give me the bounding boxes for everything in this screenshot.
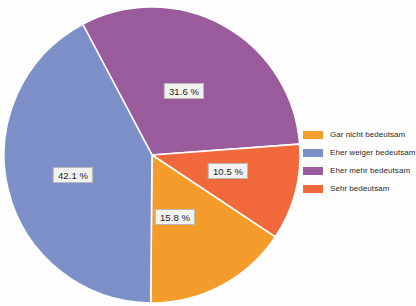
legend-item-label: Gar nicht bedeutsam bbox=[330, 130, 405, 140]
legend-color-swatch-icon bbox=[303, 149, 323, 157]
legend-color-swatch-icon bbox=[303, 131, 323, 139]
pie-slice-value-label: 42.1 % bbox=[53, 167, 93, 183]
legend-item[interactable]: Eher mehr bedeutsam bbox=[303, 162, 415, 179]
pie-slice-value-label: 10.5 % bbox=[208, 163, 248, 179]
pie-slice-group bbox=[4, 7, 300, 303]
legend-item-label: Eher mehr bedeutsam bbox=[330, 166, 410, 176]
legend-item-label: Sehr bedeutsam bbox=[330, 184, 389, 194]
legend-item[interactable]: Eher weiger bedeutsam bbox=[303, 144, 415, 161]
pie-slice-value-label: 15.8 % bbox=[155, 209, 195, 225]
pie-svg bbox=[0, 0, 306, 306]
legend-color-swatch-icon bbox=[303, 167, 323, 175]
legend-item[interactable]: Gar nicht bedeutsam bbox=[303, 126, 415, 143]
legend-item-label: Eher weiger bedeutsam bbox=[330, 148, 416, 158]
legend-color-swatch-icon bbox=[303, 185, 323, 193]
pie-plot-area: 31.6 %10.5 %15.8 %42.1 % bbox=[0, 0, 306, 306]
chart-legend: Gar nicht bedeutsamEher weiger bedeutsam… bbox=[303, 126, 415, 198]
legend-item[interactable]: Sehr bedeutsam bbox=[303, 180, 415, 197]
pie-slice-value-label: 31.6 % bbox=[164, 83, 204, 99]
